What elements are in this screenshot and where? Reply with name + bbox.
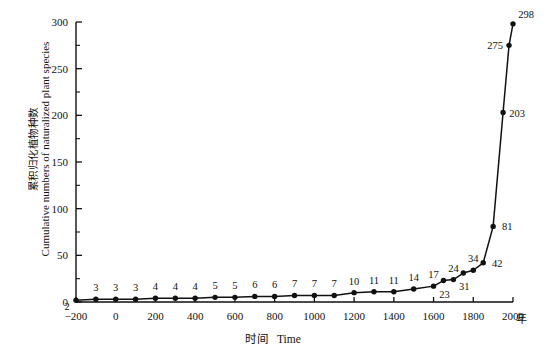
x-tick-label: 0 <box>113 310 119 322</box>
x-tick-label: 200 <box>147 310 164 322</box>
data-point-label: 3 <box>133 282 138 293</box>
series-point <box>252 294 257 299</box>
plot-area <box>0 0 546 356</box>
x-axis-title-cn: 时间 <box>245 333 268 345</box>
series-point <box>441 278 446 283</box>
y-tick-label: 300 <box>28 16 68 28</box>
y-tick-label: 200 <box>28 109 68 121</box>
data-point-label: 24 <box>448 262 459 273</box>
series-point <box>73 297 78 302</box>
series-point <box>332 293 337 298</box>
x-tick-label: 1800 <box>462 310 484 322</box>
x-axis-title-en: Time <box>277 333 301 345</box>
series-point <box>212 295 217 300</box>
x-tick-label: −200 <box>65 310 88 322</box>
data-point-label: 3 <box>93 282 98 293</box>
data-point-label: 275 <box>487 40 503 51</box>
data-point-label: 31 <box>459 281 470 292</box>
x-tick-label: 1400 <box>383 310 405 322</box>
data-point-label: 203 <box>509 107 525 118</box>
series-point <box>411 286 416 291</box>
data-point-label: 34 <box>468 253 479 264</box>
data-point-label: 4 <box>153 281 158 292</box>
series-point <box>192 296 197 301</box>
data-point-label: 6 <box>272 279 277 290</box>
series-point <box>506 43 511 48</box>
x-axis-title: 时间 Time <box>0 330 546 346</box>
series-point <box>371 289 376 294</box>
y-tick-label: 150 <box>28 156 68 168</box>
y-tick-label: 100 <box>28 203 68 215</box>
data-point-label: 4 <box>173 281 178 292</box>
series-point <box>173 296 178 301</box>
data-point-label: 6 <box>252 279 257 290</box>
x-tick-label: 400 <box>187 310 204 322</box>
series-point <box>133 297 138 302</box>
series-point <box>431 283 436 288</box>
series-line-cumulative <box>76 24 513 300</box>
data-point-label: 7 <box>312 278 317 289</box>
series-point <box>500 110 505 115</box>
data-point-label: 17 <box>428 269 439 280</box>
x-tick-label: 800 <box>266 310 283 322</box>
series-point <box>93 297 98 302</box>
y-tick-label: 0 <box>28 296 68 308</box>
series-point <box>481 260 486 265</box>
y-tick-label: 50 <box>28 249 68 261</box>
x-tick-label: 600 <box>227 310 244 322</box>
data-point-label: 5 <box>212 280 217 291</box>
data-point-label: 4 <box>193 281 198 292</box>
series-point <box>272 294 277 299</box>
series-point <box>153 296 158 301</box>
data-point-label: 11 <box>369 274 379 285</box>
y-tick-label: 250 <box>28 63 68 75</box>
data-point-label: 14 <box>408 271 419 282</box>
x-tick-label: 1600 <box>423 310 445 322</box>
data-point-label: 10 <box>349 275 360 286</box>
x-tick-label: 1000 <box>303 310 325 322</box>
data-point-label: 298 <box>518 8 534 19</box>
data-point-label: 2 <box>64 301 69 312</box>
series-point <box>351 290 356 295</box>
series-point <box>461 270 466 275</box>
series-point <box>490 224 495 229</box>
series-point <box>391 289 396 294</box>
series-point <box>232 295 237 300</box>
data-point-label: 5 <box>232 280 237 291</box>
axis-spines <box>76 22 513 302</box>
series-point <box>451 277 456 282</box>
series-point <box>312 293 317 298</box>
data-point-label: 11 <box>389 274 399 285</box>
series-point <box>510 21 515 26</box>
x-tick-label: 1200 <box>343 310 365 322</box>
series-point <box>471 268 476 273</box>
chart-figure: 累积归化植物种数 Cumulative numbers of naturaliz… <box>0 0 546 356</box>
data-point-label: 3 <box>113 282 118 293</box>
data-point-label: 81 <box>502 221 513 232</box>
x-tick-label: 2000 <box>502 310 524 322</box>
data-point-label: 7 <box>292 278 297 289</box>
data-point-label: 23 <box>439 288 450 299</box>
series-point <box>292 293 297 298</box>
data-point-label: 42 <box>492 257 503 268</box>
data-point-label: 7 <box>332 278 337 289</box>
series-point <box>113 297 118 302</box>
